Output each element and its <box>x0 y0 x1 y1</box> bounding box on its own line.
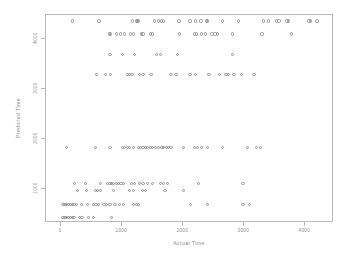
data-point <box>227 73 230 76</box>
data-point <box>99 182 102 185</box>
data-point <box>97 203 100 206</box>
data-point <box>151 32 154 35</box>
x-tick-label: 0 <box>59 228 62 233</box>
data-point <box>200 32 203 35</box>
data-point <box>206 19 209 22</box>
data-point <box>132 146 135 149</box>
data-point <box>73 182 76 185</box>
data-point <box>178 32 181 35</box>
data-point <box>194 73 197 76</box>
data-point <box>92 216 95 219</box>
data-point <box>200 146 203 149</box>
y-axis-title: Predicted Time <box>15 98 21 138</box>
plot-area <box>45 14 333 222</box>
x-tick-label: 1000 <box>116 228 127 233</box>
data-point <box>141 32 144 35</box>
data-point <box>174 73 177 76</box>
data-point <box>131 19 134 22</box>
data-point <box>221 19 224 22</box>
data-point <box>207 73 210 76</box>
data-point <box>146 182 149 185</box>
data-point <box>133 182 136 185</box>
data-point <box>206 146 209 149</box>
data-point <box>104 73 107 76</box>
data-point <box>95 73 98 76</box>
x-tick-mark <box>60 222 61 226</box>
data-point <box>163 189 166 192</box>
x-axis-title: Actual Time <box>173 240 205 246</box>
data-point <box>113 203 116 206</box>
data-point <box>130 73 133 76</box>
data-point <box>248 203 251 206</box>
data-point <box>112 189 115 192</box>
data-point <box>204 32 207 35</box>
y-tick-label: 3000 <box>33 82 38 93</box>
x-tick-mark <box>121 222 122 226</box>
data-point <box>195 32 198 35</box>
data-point <box>199 19 202 22</box>
data-point <box>216 32 219 35</box>
data-point <box>80 203 83 206</box>
data-point <box>162 19 165 22</box>
x-tick-mark <box>243 222 244 226</box>
data-point <box>128 146 131 149</box>
data-point <box>85 189 88 192</box>
data-point <box>149 73 152 76</box>
data-point <box>232 73 235 76</box>
data-point <box>162 182 165 185</box>
data-point <box>206 203 209 206</box>
x-tick-mark <box>304 222 305 226</box>
data-point <box>122 182 125 185</box>
data-point <box>141 182 144 185</box>
data-point <box>132 32 135 35</box>
data-point <box>196 146 199 149</box>
data-point <box>128 189 131 192</box>
data-point <box>197 182 200 185</box>
data-point <box>177 19 180 22</box>
data-points-layer <box>46 15 332 221</box>
x-tick-label: 3000 <box>238 228 249 233</box>
data-point <box>151 182 154 185</box>
data-point <box>166 182 169 185</box>
data-point <box>182 189 185 192</box>
data-point <box>97 19 100 22</box>
data-point <box>86 203 89 206</box>
data-point <box>121 53 124 56</box>
data-point <box>259 146 262 149</box>
data-point <box>262 19 265 22</box>
data-point <box>109 73 112 76</box>
data-point <box>94 146 97 149</box>
scatter-plot-figure: Predicted Time Actual Time 0100020003000… <box>0 0 349 256</box>
data-point <box>84 182 87 185</box>
data-point <box>287 19 290 22</box>
data-point <box>108 203 111 206</box>
data-point <box>260 32 263 35</box>
data-point <box>115 32 118 35</box>
data-point <box>169 146 172 149</box>
data-point <box>108 146 111 149</box>
y-tick-label: 1000 <box>33 183 38 194</box>
data-point <box>221 146 224 149</box>
data-point <box>231 53 234 56</box>
data-point <box>176 53 179 56</box>
data-point <box>141 73 144 76</box>
data-point <box>87 216 90 219</box>
x-tick-label: 4000 <box>299 228 310 233</box>
data-point <box>237 19 240 22</box>
data-point <box>137 19 140 22</box>
data-point <box>137 203 140 206</box>
data-point <box>123 32 126 35</box>
data-point <box>241 182 244 185</box>
data-point <box>133 53 136 56</box>
data-point <box>309 19 312 22</box>
data-point <box>99 189 102 192</box>
x-tick-mark <box>182 222 183 226</box>
data-point <box>267 19 270 22</box>
data-point <box>252 73 255 76</box>
data-point <box>182 146 185 149</box>
data-point <box>65 146 68 149</box>
data-point <box>255 146 258 149</box>
data-point <box>153 19 156 22</box>
data-point <box>218 73 221 76</box>
data-point <box>159 53 162 56</box>
